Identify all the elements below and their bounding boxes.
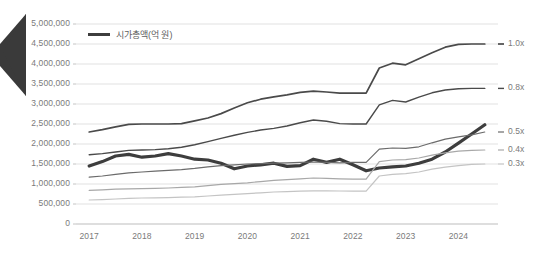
y-axis-tick-label: 0 [4,218,70,228]
y-axis-tick-label: 4,500,000 [4,38,70,48]
y-tick-marks [73,24,76,224]
series-lines [89,44,485,200]
legend-swatch-market-cap [88,33,110,37]
y-axis-tick-label: 3,000,000 [4,98,70,108]
y-axis-tick-label: 2,500,000 [4,118,70,128]
chart-container: 5,000,0004,500,0004,000,0003,500,0003,00… [0,0,548,263]
right-axis-label: 0.3x [508,158,524,168]
right-axis-label: 1.0x [508,38,524,48]
plot-area [0,0,548,263]
y-axis-tick-label: 1,000,000 [4,178,70,188]
right-axis-connectors [498,44,504,164]
y-axis-tick-label: 4,000,000 [4,58,70,68]
x-axis-tick-label: 2020 [227,231,267,241]
y-axis-tick-label: 500,000 [4,198,70,208]
y-axis-tick-label: 3,500,000 [4,78,70,88]
series-line-0-3x [89,164,485,200]
legend-label-market-cap: 시가총액(억 원) [116,28,173,41]
y-axis-tick-label: 1,500,000 [4,158,70,168]
right-axis-label: 0.8x [508,82,524,92]
x-axis-tick-label: 2018 [122,231,162,241]
x-axis-tick-label: 2021 [280,231,320,241]
x-axis-tick-label: 2019 [175,231,215,241]
legend: 시가총액(억 원) [88,28,173,41]
x-axis-tick-label: 2017 [69,231,109,241]
right-axis-label: 0.4x [508,144,524,154]
x-axis-tick-label: 2024 [438,231,478,241]
y-axis-tick-label: 5,000,000 [4,18,70,28]
y-axis-tick-label: 2,000,000 [4,138,70,148]
series-line-1-0x [89,44,485,132]
right-axis-label: 0.5x [508,126,524,136]
x-axis-tick-label: 2023 [386,231,426,241]
x-axis-tick-label: 2022 [333,231,373,241]
